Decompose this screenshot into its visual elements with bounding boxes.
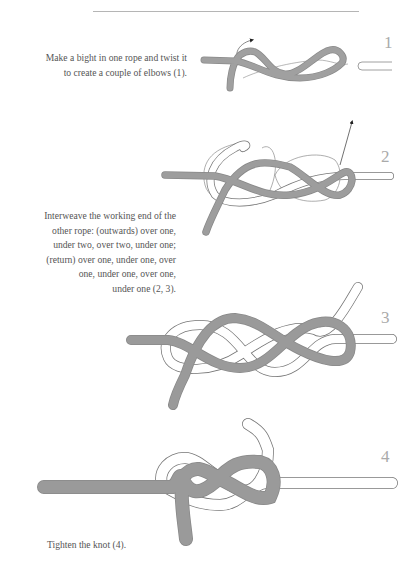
step-4-diagram bbox=[44, 424, 392, 539]
step-3-diagram bbox=[131, 287, 392, 405]
knot-illustrations bbox=[0, 0, 410, 571]
step-2-diagram bbox=[165, 122, 390, 232]
step-1-diagram bbox=[204, 40, 392, 88]
